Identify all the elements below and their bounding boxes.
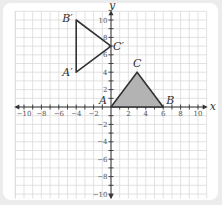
y-axis-label: y bbox=[108, 0, 116, 12]
vertex-label: B′ bbox=[61, 12, 73, 25]
vertex-label: B bbox=[165, 94, 174, 107]
coordinate-plane: xy −10−8−6−4−2246810108642−2−4−6−8−10 AB… bbox=[0, 0, 222, 205]
x-axis-label: x bbox=[210, 100, 217, 113]
x-tick-label: 6 bbox=[161, 110, 166, 118]
y-tick-label: −4 bbox=[97, 138, 108, 146]
vertex-label: C′ bbox=[113, 40, 124, 53]
vertex-label: C bbox=[133, 57, 142, 70]
vertex-labels: ABCA′B′C′ bbox=[61, 12, 174, 107]
y-tick-label: −8 bbox=[97, 173, 107, 181]
y-tick-label: −10 bbox=[93, 191, 108, 199]
x-tick-label: 8 bbox=[178, 110, 182, 118]
y-tick-label: 10 bbox=[99, 17, 108, 25]
vertex-label: A′ bbox=[61, 66, 73, 79]
vertex-label: A bbox=[98, 94, 107, 107]
y-tick-label: −6 bbox=[97, 156, 108, 164]
arrow-down-icon bbox=[109, 194, 114, 199]
x-tick-label: 2 bbox=[126, 110, 130, 118]
y-tick-label: 2 bbox=[103, 86, 107, 94]
x-tick-label: −10 bbox=[17, 110, 32, 118]
x-tick-label: −2 bbox=[88, 110, 98, 118]
y-tick-label: 4 bbox=[103, 69, 108, 77]
x-tick-label: −4 bbox=[71, 110, 82, 118]
x-tick-label: 4 bbox=[144, 110, 149, 118]
x-tick-label: −6 bbox=[54, 110, 65, 118]
x-tick-label: −8 bbox=[36, 110, 46, 118]
x-tick-label: 10 bbox=[194, 110, 203, 118]
y-tick-label: −2 bbox=[97, 121, 107, 129]
